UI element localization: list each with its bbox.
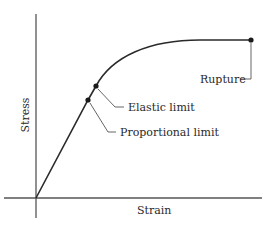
x-axis-label: Strain: [137, 204, 171, 217]
proportional-limit-point: [85, 97, 90, 102]
proportional-limit-label: Proportional limit: [120, 126, 219, 139]
elastic-limit-leader: [98, 89, 124, 107]
stress-strain-curve: [36, 40, 251, 198]
rupture-point: [248, 37, 253, 42]
rupture-label: Rupture: [200, 73, 246, 86]
diagram-canvas: Elastic limit Proportional limit Rupture…: [0, 0, 275, 226]
elastic-limit-point: [93, 83, 98, 88]
proportional-limit-leader: [90, 103, 116, 132]
y-axis-label: Stress: [19, 97, 32, 132]
stress-strain-diagram: Elastic limit Proportional limit Rupture…: [0, 0, 275, 226]
elastic-limit-label: Elastic limit: [128, 101, 195, 114]
